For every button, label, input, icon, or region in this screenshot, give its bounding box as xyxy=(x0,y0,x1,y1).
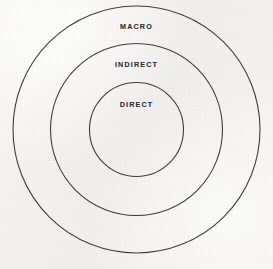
concentric-circles-diagram: MACRO INDIRECT DIRECT xyxy=(0,0,273,269)
diagram-canvas xyxy=(0,0,273,269)
circle-indirect xyxy=(51,44,223,216)
ring-label-indirect: INDIRECT xyxy=(0,60,273,69)
ring-label-direct: DIRECT xyxy=(0,100,273,109)
circle-direct xyxy=(90,83,184,177)
ring-label-macro: MACRO xyxy=(0,22,273,31)
